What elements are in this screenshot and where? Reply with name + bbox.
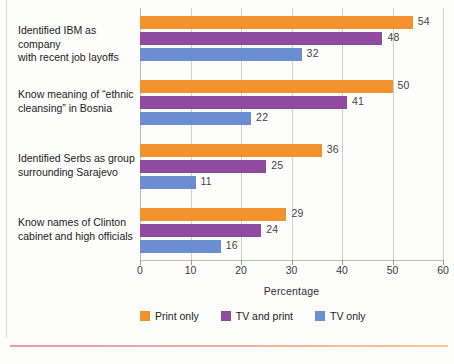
x-tick-label-10: 10 [185,264,197,276]
category-label: Know names of Clintoncabinet and high of… [18,216,136,243]
bar-row: 54 [140,16,443,29]
category-label-line: Identified IBM as company [18,24,136,51]
bar-value-label: 41 [352,95,364,107]
bar-tv-and-print[interactable] [140,224,261,237]
legend-label: TV and print [236,310,293,322]
x-tick-mark-10 [191,260,192,265]
bar-tv-only[interactable] [140,240,221,253]
category-label-line: cleansing” in Bosnia [18,102,136,116]
bar-row: 50 [140,80,443,93]
bar-value-label: 24 [266,223,278,235]
chart-figure: 544832504122362511292416 Identified IBM … [0,0,454,364]
x-tick-label-50: 50 [387,264,399,276]
category-label-line: Know names of Clinton [18,216,136,230]
bar-group: 544832 [140,16,443,64]
bar-value-label: 29 [291,207,303,219]
bar-value-label: 22 [256,111,268,123]
bar-value-label: 48 [387,31,399,43]
x-tick-mark-50 [393,260,394,265]
legend-swatch-icon [315,311,325,321]
bar-print-only[interactable] [140,16,413,29]
bar-row: 29 [140,208,443,221]
bar-group: 504122 [140,80,443,128]
legend-item[interactable]: TV only [315,310,366,322]
category-label-line: Identified Serbs as group [18,152,136,166]
bar-row: 36 [140,144,443,157]
legend-swatch-icon [221,311,231,321]
legend-label: TV only [330,310,366,322]
bar-value-label: 25 [271,159,283,171]
x-tick-label-30: 30 [286,264,298,276]
legend-item[interactable]: Print only [140,310,199,322]
x-tick-label-60: 60 [437,264,449,276]
category-label-line: with recent job layoffs [18,51,136,65]
bar-value-label: 50 [398,79,410,91]
bar-print-only[interactable] [140,208,286,221]
x-tick-label-40: 40 [336,264,348,276]
bar-row: 25 [140,160,443,173]
legend-swatch-icon [140,311,150,321]
bar-value-label: 32 [307,47,319,59]
bar-value-label: 54 [418,15,430,27]
bar-value-label: 11 [201,175,212,187]
category-label-line: cabinet and high officials [18,230,136,244]
legend-item[interactable]: TV and print [221,310,293,322]
footer-accent-rule [10,345,448,347]
bar-value-label: 16 [226,239,238,251]
bar-row: 48 [140,32,443,45]
bar-print-only[interactable] [140,80,393,93]
x-tick-mark-0 [140,260,141,265]
plot-area: 544832504122362511292416 [140,8,443,260]
x-tick-label-20: 20 [235,264,247,276]
gridline-60 [443,8,444,260]
legend-label: Print only [155,310,199,322]
bar-row: 22 [140,112,443,125]
bar-tv-only[interactable] [140,48,302,61]
bar-row: 11 [140,176,443,189]
bar-row: 16 [140,240,443,253]
x-tick-mark-60 [443,260,444,265]
bar-tv-and-print[interactable] [140,96,347,109]
bar-group: 362511 [140,144,443,192]
bar-row: 24 [140,224,443,237]
bar-value-label: 36 [327,143,339,155]
category-label: Know meaning of “ethniccleansing” in Bos… [18,88,136,115]
bar-row: 41 [140,96,443,109]
bar-group: 292416 [140,208,443,256]
bar-tv-only[interactable] [140,112,251,125]
figure-left-rule [6,0,7,338]
category-label-line: surrounding Sarajevo [18,166,136,180]
category-label: Identified IBM as companywith recent job… [18,24,136,65]
bar-tv-only[interactable] [140,176,196,189]
bar-print-only[interactable] [140,144,322,157]
x-tick-mark-30 [292,260,293,265]
category-label: Identified Serbs as groupsurrounding Sar… [18,152,136,179]
chart-legend: Print onlyTV and printTV only [140,310,443,322]
bar-row: 32 [140,48,443,61]
x-axis-title: Percentage [140,285,443,297]
category-label-line: Know meaning of “ethnic [18,88,136,102]
x-tick-mark-20 [241,260,242,265]
x-tick-label-0: 0 [137,264,143,276]
bar-tv-and-print[interactable] [140,160,266,173]
x-tick-mark-40 [342,260,343,265]
bar-tv-and-print[interactable] [140,32,382,45]
